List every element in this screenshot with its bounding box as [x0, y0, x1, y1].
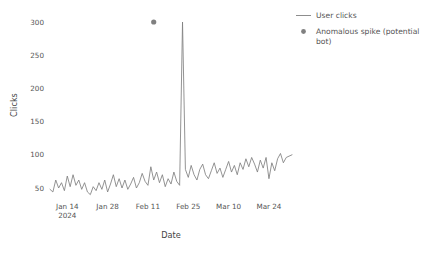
- clicks-time-series-chart: 50100150200250300 Jan 14Jan 28Feb 11Feb …: [0, 0, 445, 257]
- x-tick-jan-14: Jan 14: [55, 202, 79, 211]
- x-axis-title: Date: [161, 230, 181, 240]
- y-tick-300: 300: [30, 18, 44, 27]
- x-tick-jan-28: Jan 28: [95, 202, 119, 211]
- x-axis-year-sublabel: 2024: [58, 211, 77, 220]
- y-tick-100: 100: [30, 150, 44, 159]
- x-tick-feb-11: Feb 11: [136, 202, 160, 211]
- y-tick-200: 200: [30, 84, 44, 93]
- x-tick-feb-25: Feb 25: [176, 202, 200, 211]
- chart-figure: 50100150200250300 Jan 14Jan 28Feb 11Feb …: [0, 0, 445, 257]
- legend-item-anomalous-spike-line1: Anomalous spike (potential: [316, 27, 419, 36]
- legend-item-anomalous-spike-line2: bot): [316, 37, 331, 46]
- y-tick-250: 250: [30, 51, 44, 60]
- y-axis-title: Clicks: [9, 93, 19, 117]
- anomalous-spike-marker: [151, 19, 156, 24]
- legend-item-user-clicks: User clicks: [316, 11, 357, 20]
- x-tick-mar-10: Mar 10: [216, 202, 241, 211]
- x-tick-mar-24: Mar 24: [256, 202, 281, 211]
- legend-dot-swatch: [301, 29, 306, 34]
- y-tick-150: 150: [30, 117, 44, 126]
- y-tick-50: 50: [35, 184, 45, 193]
